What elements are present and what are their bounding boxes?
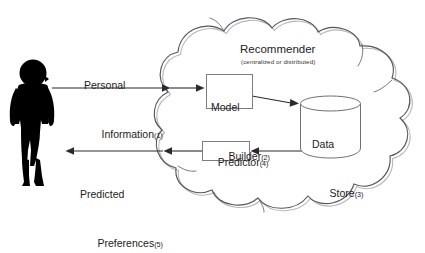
model-builder-line1: Model: [211, 101, 270, 113]
cloud-title: Recommender: [240, 43, 315, 57]
data-store-line2: Store: [330, 187, 355, 199]
model-builder-label: Model Builder(2): [211, 76, 270, 200]
flow-label-line2: Information: [102, 128, 155, 140]
person-silhouette-icon: [10, 60, 55, 187]
data-store-line1: Data: [312, 138, 363, 150]
predictor-line1: Predictor: [218, 156, 260, 168]
cloud-subtitle: (centralized or distributed): [241, 58, 315, 65]
flow-label-predicted-preferences: Predicted Preferences(5): [80, 163, 163, 253]
flow-label-5-line2-wrap: Preferences(5): [80, 225, 163, 253]
flow-index-5: (5): [154, 240, 163, 249]
data-store-line2-wrap: Store(3): [312, 175, 363, 212]
flow-label-personal-information: Personal Information(1): [84, 54, 163, 178]
data-store-label: Data Store(3): [312, 113, 363, 237]
arrow-into-model-builder: [170, 84, 205, 92]
flow-label-5-line1: Predicted: [80, 188, 163, 200]
flow-label-line1: Personal: [84, 79, 163, 91]
predictor-index: (4): [260, 159, 269, 168]
flow-label-5-line2: Preferences: [98, 237, 155, 249]
flow-index-1: (1): [154, 131, 163, 140]
flow-label-line2-wrap: Information(1): [84, 116, 163, 153]
data-store-index: (3): [355, 190, 364, 199]
predictor-label: Predictor(4): [206, 144, 268, 181]
